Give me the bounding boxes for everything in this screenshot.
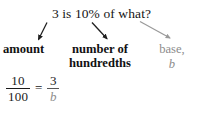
label-base-line1: base, (159, 42, 185, 56)
label-base: base, b (148, 42, 196, 71)
fraction-left-numerator: 10 (9, 74, 26, 87)
proportion-equation: 10 100 = 3 b (6, 74, 59, 104)
fraction-left: 10 100 (6, 74, 30, 104)
label-hundredths-line2: hundredths (60, 56, 140, 70)
fraction-right: 3 b (47, 74, 59, 104)
fraction-right-denominator: b (48, 90, 59, 103)
label-number-of-hundredths: number of hundredths (60, 42, 140, 70)
label-base-variable: b (148, 57, 196, 71)
question-text: 3 is 10% of what? (0, 6, 203, 21)
equals-sign: = (35, 80, 42, 97)
arrow-to-hundredths (92, 23, 107, 39)
arrow-to-base (140, 22, 170, 39)
fraction-left-denominator: 100 (6, 90, 30, 103)
percent-proportion-diagram: 3 is 10% of what? amount number of hundr… (0, 0, 203, 114)
label-amount: amount (3, 42, 44, 56)
fraction-right-numerator: 3 (48, 74, 59, 87)
label-hundredths-line1: number of (72, 42, 128, 56)
arrow-to-amount (39, 23, 48, 40)
